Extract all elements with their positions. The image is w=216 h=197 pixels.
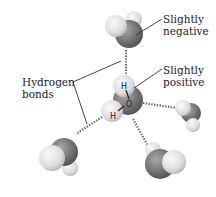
label-slightly-negative-1: Slightly xyxy=(163,13,204,25)
hydrogen-atom xyxy=(175,100,191,116)
atom-label-o: O xyxy=(126,100,132,109)
label-slightly-positive-2: positive xyxy=(163,76,205,88)
hydrogen-atom xyxy=(39,145,65,171)
water-molecule-central: H O H xyxy=(101,75,143,122)
hydrogen-atom xyxy=(105,15,127,37)
label-hydrogen-bonds-2: bonds xyxy=(22,88,54,100)
hydrogen-atom xyxy=(162,150,186,174)
atom-label-h-bottom: H xyxy=(110,112,116,121)
hbond-right xyxy=(143,103,177,108)
leader-slightly-positive xyxy=(134,69,162,88)
water-molecule-top xyxy=(105,11,143,48)
label-hydrogen-bonds-1: Hydrogen xyxy=(22,76,75,88)
water-hydrogen-bond-diagram: H O H Slightly negative Slightly positiv… xyxy=(0,0,216,197)
atom-label-h-top: H xyxy=(121,82,127,91)
hbond-bottom-left xyxy=(76,117,102,134)
water-molecule-right xyxy=(175,100,201,132)
label-slightly-positive-1: Slightly xyxy=(163,64,204,76)
hydrogen-atom xyxy=(186,118,200,132)
label-slightly-negative-2: negative xyxy=(163,25,209,37)
water-molecule-bottom-left xyxy=(39,138,78,176)
hbond-bottom-right xyxy=(133,119,148,146)
water-molecule-bottom-right xyxy=(145,142,186,179)
